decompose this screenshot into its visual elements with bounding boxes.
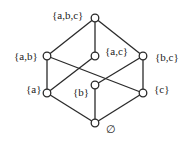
node-c	[139, 89, 147, 97]
node-a	[43, 89, 51, 97]
label-empty: ∅	[106, 123, 116, 135]
label-ab: {a,b}	[14, 50, 38, 62]
node-empty	[91, 119, 99, 127]
label-c: {c}	[154, 83, 169, 95]
node-b	[91, 81, 99, 89]
edge-bc-b	[95, 56, 143, 85]
label-b: {b}	[73, 86, 89, 98]
label-abc: {a,b,c}	[52, 9, 83, 21]
edge-abc-ab	[47, 18, 95, 56]
label-bc: {b,c}	[155, 51, 179, 63]
labels: {a,b,c} {a,b} {a,c} {b,c} {a} {b} {c} ∅	[14, 9, 179, 135]
node-bc	[139, 52, 147, 60]
node-abc	[91, 14, 99, 22]
label-ac: {a,c}	[105, 45, 128, 57]
edge-c-empty	[95, 93, 143, 123]
label-a: {a}	[26, 83, 41, 95]
node-ab	[43, 52, 51, 60]
node-ac	[91, 52, 99, 60]
edges	[47, 18, 143, 123]
hasse-diagram: {a,b,c} {a,b} {a,c} {b,c} {a} {b} {c} ∅	[0, 0, 189, 141]
